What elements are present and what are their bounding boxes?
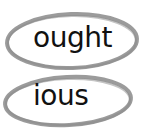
word-ious: ious xyxy=(33,82,88,110)
worksheet: ought ious xyxy=(0,0,143,131)
word-ought: ought xyxy=(33,24,112,52)
